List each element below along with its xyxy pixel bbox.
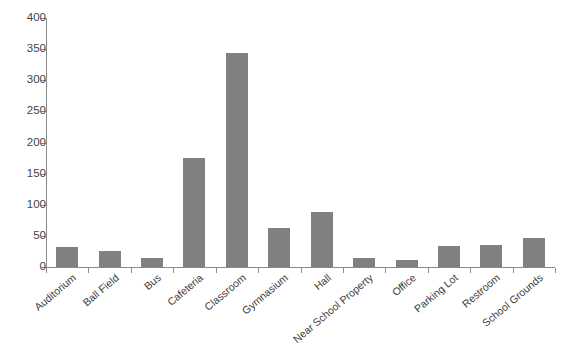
y-tick-label: 400 <box>10 12 46 24</box>
bar[interactable] <box>353 258 375 267</box>
bar[interactable] <box>438 246 460 267</box>
y-axis-line <box>46 18 47 267</box>
y-tick-label: 250 <box>10 106 46 118</box>
y-tick-label: 50 <box>10 230 46 242</box>
bar[interactable] <box>396 260 418 267</box>
bar[interactable] <box>56 247 78 267</box>
y-tick-label: 150 <box>10 168 46 180</box>
x-tick-mark <box>46 268 47 273</box>
bar-chart: 050100150200250300350400 AuditoriumBall … <box>0 0 576 364</box>
y-tick-label: 300 <box>10 75 46 87</box>
y-tick-label: 200 <box>10 137 46 149</box>
y-tick-label: 100 <box>10 199 46 211</box>
y-tick-label: 350 <box>10 43 46 55</box>
bar[interactable] <box>183 158 205 267</box>
y-tick-label: 0 <box>10 261 46 273</box>
plot-area <box>0 0 576 364</box>
bar[interactable] <box>226 53 248 267</box>
